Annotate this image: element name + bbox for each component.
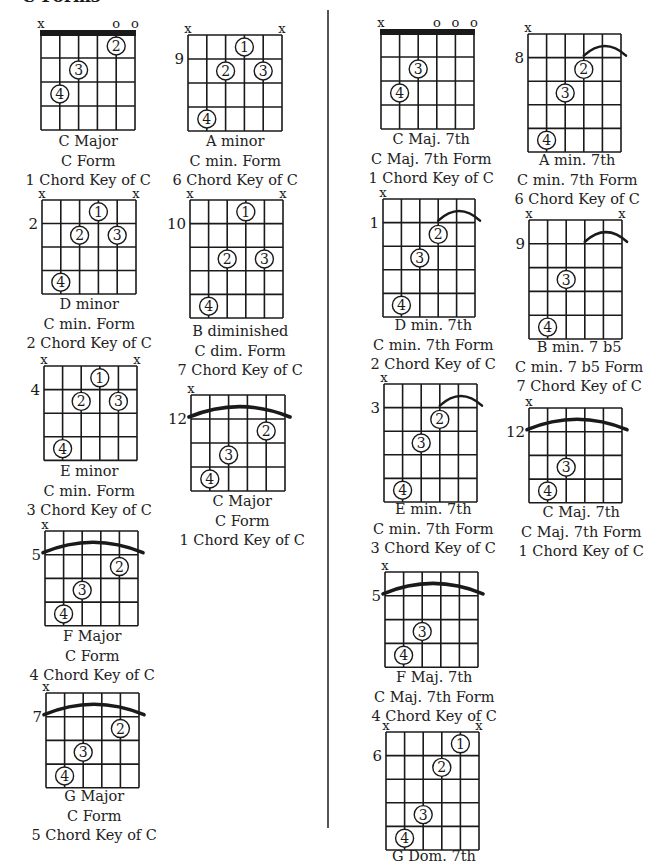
fret-number-label: 6 <box>372 747 382 765</box>
finger-dot: 2 <box>433 758 451 776</box>
chord-name: G Dom. 7th <box>392 847 476 866</box>
finger-dot: 4 <box>396 829 414 847</box>
fretboard-grid: xx61234 <box>0 0 649 866</box>
svg-text:2: 2 <box>437 759 446 775</box>
svg-text:3: 3 <box>419 807 428 823</box>
svg-text:4: 4 <box>400 830 409 846</box>
chord-caption: G Dom. 7th <box>392 847 476 866</box>
finger-dot: 3 <box>414 806 432 824</box>
svg-text:1: 1 <box>456 736 465 752</box>
muted-string-icon: x <box>475 718 483 733</box>
finger-dot: 1 <box>451 735 469 753</box>
muted-string-icon: x <box>382 718 390 733</box>
